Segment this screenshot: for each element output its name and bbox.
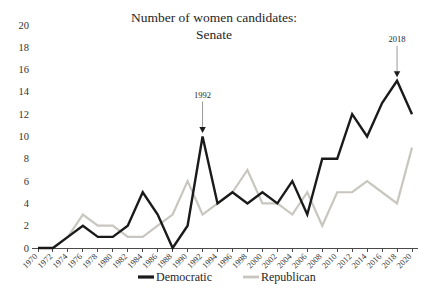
annotation-label-1992: 1992 xyxy=(194,90,211,100)
y-axis: 02468101214161820 xyxy=(19,20,30,254)
y-axis-tick-label: 20 xyxy=(19,20,30,31)
chart-title-group: Number of women candidates: Senate xyxy=(131,10,297,42)
x-axis-tick-label: 2020 xyxy=(394,251,413,270)
y-axis-tick-label: 16 xyxy=(19,64,30,75)
x-axis: 1970197219741976197819801982198419861988… xyxy=(20,248,418,270)
legend-label-democratic[interactable]: Democratic xyxy=(156,270,212,284)
y-axis-tick-label: 10 xyxy=(19,131,30,142)
y-axis-tick-label: 14 xyxy=(19,86,30,97)
y-axis-tick-label: 6 xyxy=(24,176,29,187)
legend-label-republican[interactable]: Republican xyxy=(261,270,316,284)
annotation-arrow-2018 xyxy=(394,71,400,77)
y-axis-tick-label: 2 xyxy=(24,220,29,231)
y-axis-tick-label: 0 xyxy=(24,243,29,254)
annotations: 19922018 xyxy=(194,34,405,133)
y-axis-tick-label: 12 xyxy=(19,109,30,120)
annotation-label-2018: 2018 xyxy=(389,34,406,44)
y-axis-tick-label: 8 xyxy=(24,153,29,164)
page-title: Number of women candidates: xyxy=(131,10,297,25)
women-candidates-senate-line-chart: Number of women candidates: Senate 02468… xyxy=(0,0,428,294)
chart-container: Number of women candidates: Senate 02468… xyxy=(0,0,428,294)
annotation-arrow-1992 xyxy=(199,127,205,133)
y-axis-tick-label: 18 xyxy=(19,42,30,53)
chart-subtitle: Senate xyxy=(196,27,232,42)
series-lines xyxy=(38,81,412,248)
y-axis-tick-label: 4 xyxy=(24,198,30,209)
chart-legend: DemocraticRepublican xyxy=(138,270,316,284)
